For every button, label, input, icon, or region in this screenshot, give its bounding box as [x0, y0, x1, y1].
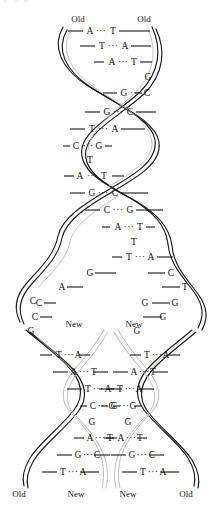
label-new-bottom-3: New [120, 489, 137, 499]
base-letter: T [131, 237, 137, 247]
hydrogen-bond: ··· [119, 401, 130, 411]
base-letter: G [172, 298, 179, 308]
label-old-top-right: Old [137, 14, 151, 24]
base-letter: A [112, 124, 119, 134]
base-letter: A [87, 26, 94, 36]
hydrogen-bond: ··· [113, 205, 124, 215]
base-letter: T [126, 252, 132, 262]
base-letter: T [182, 282, 188, 292]
hydrogen-bond: ··· [137, 450, 148, 460]
base-letter: C [144, 88, 150, 98]
base-letter: T [144, 350, 150, 360]
hydrogen-bond: ··· [118, 57, 129, 67]
base-letter: T [87, 155, 93, 165]
label-new-mid-right: New [126, 319, 143, 329]
base-letter: A [131, 367, 138, 377]
base-letter: T [56, 350, 62, 360]
dna-replication-figure: p g g [0, 0, 219, 505]
base-letter: A [80, 467, 87, 477]
base-letter: T [140, 467, 146, 477]
base-letter: A [109, 57, 116, 67]
hydrogen-bond: ··· [126, 433, 137, 443]
hydrogen-bond: ··· [98, 188, 109, 198]
base-letter: C [94, 450, 100, 460]
base-letter: A [148, 252, 155, 262]
base-letter: A [115, 222, 122, 232]
base-letter: A [160, 467, 167, 477]
base-letter: G [87, 268, 94, 278]
hydrogen-bond: ··· [148, 467, 159, 477]
hydrogen-bond: ··· [113, 107, 124, 117]
base-letter: A [122, 41, 129, 51]
base-letter: G [125, 417, 132, 427]
base-letter: G [104, 107, 111, 117]
base-letter: G [142, 298, 149, 308]
base-letter: C [104, 205, 110, 215]
base-letter: C [73, 141, 79, 151]
label-old-bottom-1: Old [12, 489, 26, 499]
hydrogen-bond: ··· [64, 350, 75, 360]
hydrogen-bond: ··· [135, 252, 146, 262]
base-letter: G [127, 205, 134, 215]
base-letter: T [137, 222, 143, 232]
base-letter: C [36, 298, 42, 308]
label-old-bottom-4: Old [179, 489, 193, 499]
base-letter: G [129, 450, 136, 460]
label-new-bottom-2: New [68, 489, 85, 499]
base-letter: T [99, 41, 105, 51]
base-letter: C [30, 296, 36, 306]
hydrogen-bond: ··· [79, 367, 90, 377]
hydrogen-bond: ··· [83, 450, 94, 460]
base-letter: A [59, 282, 66, 292]
hydrogen-bond: ··· [83, 141, 94, 151]
base-letters: A ··· T T ··· A A ··· T G G ··· C G ··· … [28, 26, 189, 477]
base-letter: A [118, 433, 125, 443]
hydrogen-bond: ··· [130, 88, 141, 98]
base-letter: G [160, 312, 167, 322]
hydrogen-bond: ··· [98, 401, 109, 411]
hydrogen-bond: ··· [98, 124, 109, 134]
base-letter: G [130, 401, 137, 411]
base-letter: A [105, 384, 112, 394]
hydrogen-bond: ··· [93, 384, 104, 394]
base-letter: T [60, 467, 66, 477]
base-letter: T [89, 124, 95, 134]
base-letter: A [163, 350, 170, 360]
base-letter: C [111, 401, 117, 411]
hydrogen-bond: ··· [152, 350, 163, 360]
base-letter: C [112, 188, 118, 198]
base-letter: T [150, 367, 156, 377]
base-letter: T [137, 433, 143, 443]
hydrogen-bond: ··· [95, 433, 106, 443]
hydrogen-bond: ··· [125, 384, 136, 394]
base-letter: G [96, 141, 103, 151]
hydrogen-bond: ··· [68, 467, 79, 477]
base-letter: G [28, 326, 35, 336]
base-letter: T [101, 171, 107, 181]
base-letter: T [107, 433, 113, 443]
hydrogen-bond: ··· [124, 222, 135, 232]
hydrogen-bond: ··· [139, 367, 150, 377]
base-letter: C [168, 268, 174, 278]
base-letter: A [71, 367, 78, 377]
base-letter: T [85, 384, 91, 394]
base-letter: C [32, 312, 38, 322]
base-letter: T [110, 26, 116, 36]
dna-helix-svg: A ··· T T ··· A A ··· T G G ··· C G ··· … [0, 0, 219, 505]
base-letter: G [89, 188, 96, 198]
base-letter: A [75, 350, 82, 360]
base-letter: T [91, 367, 97, 377]
base-letter: T [131, 57, 137, 67]
base-letter: G [121, 88, 128, 98]
base-letter: A [87, 433, 94, 443]
base-letter: A [77, 171, 84, 181]
base-letter: G [145, 72, 152, 82]
base-letter: C [90, 401, 96, 411]
base-letter: G [89, 417, 96, 427]
base-letter: G [75, 450, 82, 460]
hydrogen-bond: ··· [96, 26, 107, 36]
hydrogen-bond: ··· [87, 171, 98, 181]
base-letter: T [117, 384, 123, 394]
base-letter: C [127, 107, 133, 117]
label-new-mid-left: New [66, 319, 83, 329]
